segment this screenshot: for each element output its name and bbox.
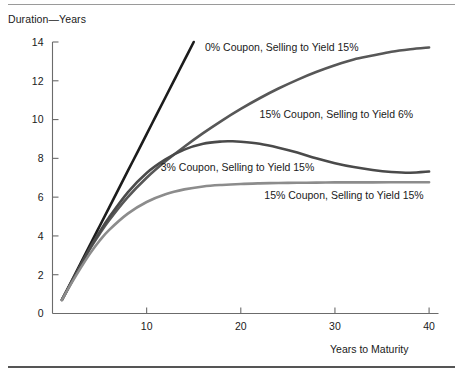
x-axis-title: Years to Maturity: [330, 343, 408, 355]
duration-vs-maturity-plot: 0246810121410203040 0% Coupon, Selling t…: [0, 0, 463, 378]
y-tick-label: 2: [38, 269, 44, 281]
bottom-rule: [8, 366, 455, 368]
x-tick-label: 40: [423, 320, 435, 332]
y-tick-label: 0: [38, 307, 44, 319]
y-tick-label: 14: [32, 36, 44, 48]
x-tick-label: 30: [329, 320, 341, 332]
chart-figure: Duration—Years 0246810121410203040 0% Co…: [0, 0, 463, 378]
y-tick-label: 12: [32, 75, 44, 87]
series-curve-2: [62, 47, 429, 300]
x-tick-label: 20: [235, 320, 247, 332]
y-tick-label: 6: [38, 191, 44, 203]
series-label-4: 15% Coupon, Selling to Yield 15%: [264, 189, 423, 201]
x-tick-label: 10: [141, 320, 153, 332]
series-labels: 0% Coupon, Selling to Yield 15%15% Coupo…: [161, 41, 424, 201]
y-tick-label: 8: [38, 152, 44, 164]
y-tick-label: 10: [32, 113, 44, 125]
y-tick-label: 4: [38, 230, 44, 242]
series-label-2: 15% Coupon, Selling to Yield 6%: [260, 108, 414, 120]
series-label-1: 0% Coupon, Selling to Yield 15%: [205, 41, 359, 53]
series-label-3: 3% Coupon, Selling to Yield 15%: [161, 161, 315, 173]
